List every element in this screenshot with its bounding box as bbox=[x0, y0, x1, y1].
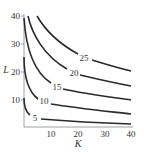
x-axis-label: K bbox=[74, 138, 83, 149]
y-tick-label: 40 bbox=[11, 11, 21, 21]
contour-5-upper bbox=[24, 98, 30, 115]
contour-5-lower bbox=[41, 119, 131, 124]
contour-20-lower bbox=[80, 75, 131, 86]
contour-label-15: 15 bbox=[53, 82, 63, 92]
contour-label-5: 5 bbox=[33, 113, 38, 123]
contour-chart: 40 30 20 10 L 10 20 30 40 K 25 20 15 10 … bbox=[0, 0, 144, 152]
contour-25-lower bbox=[92, 60, 131, 71]
y-tick-label: 30 bbox=[11, 39, 21, 49]
contour-10-upper bbox=[24, 57, 38, 99]
x-tick-label: 30 bbox=[101, 129, 111, 139]
contour-label-25: 25 bbox=[80, 53, 90, 63]
x-tick-label: 10 bbox=[47, 129, 57, 139]
contour-15-lower bbox=[63, 89, 131, 100]
contour-15-upper bbox=[24, 18, 51, 83]
x-tick-label: 40 bbox=[127, 129, 137, 139]
contour-10-lower bbox=[51, 104, 131, 114]
contour-label-10: 10 bbox=[40, 96, 50, 106]
contour-label-20: 20 bbox=[70, 68, 80, 78]
y-tick-label: 20 bbox=[11, 67, 21, 77]
y-axis-label: L bbox=[2, 64, 9, 75]
axes bbox=[24, 14, 133, 127]
y-tick-label: 10 bbox=[11, 95, 21, 105]
